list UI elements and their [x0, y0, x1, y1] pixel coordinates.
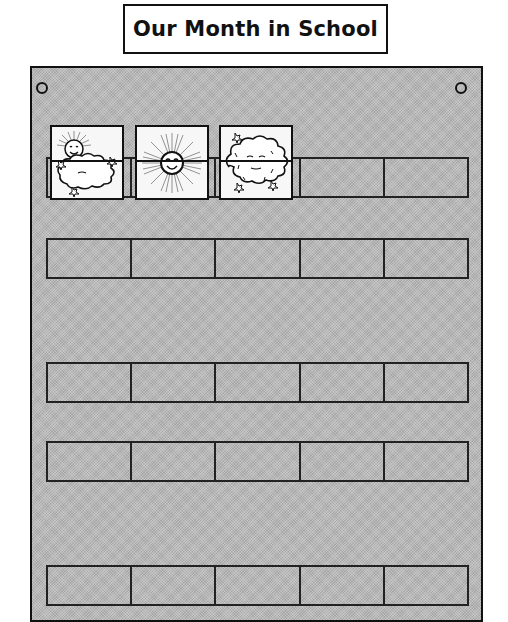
pocket[interactable] [132, 240, 216, 277]
pocket[interactable] [301, 443, 385, 480]
pocket[interactable] [216, 567, 300, 604]
pocket[interactable] [48, 567, 132, 604]
grommet-hole-top-left [36, 82, 48, 94]
pocket[interactable] [385, 240, 467, 277]
pocket-row-5 [46, 565, 469, 606]
pocket[interactable] [301, 364, 385, 401]
pocket-row-3 [46, 362, 469, 403]
page-title: Our Month in School [133, 17, 378, 41]
weather-card-partly-cloudy[interactable] [50, 125, 124, 200]
sun-behind-cloud-icon [52, 127, 122, 198]
grommet-hole-top-right [455, 82, 467, 94]
pocket-lip-line [137, 160, 207, 162]
pocket[interactable] [301, 159, 385, 196]
cloud-icon [221, 127, 291, 198]
pocket[interactable] [385, 443, 467, 480]
pocket[interactable] [132, 567, 216, 604]
pocket[interactable] [385, 567, 467, 604]
pocket[interactable] [385, 364, 467, 401]
pocket[interactable] [385, 159, 467, 196]
pocket[interactable] [301, 240, 385, 277]
pocket-lip-line [52, 160, 122, 162]
pocket[interactable] [48, 364, 132, 401]
pocket[interactable] [301, 567, 385, 604]
weather-card-cloudy[interactable] [219, 125, 293, 200]
pocket[interactable] [48, 443, 132, 480]
pocket[interactable] [216, 364, 300, 401]
pocket[interactable] [48, 240, 132, 277]
pocket-row-4 [46, 441, 469, 482]
sun-icon [137, 127, 207, 198]
weather-card-sunny[interactable] [135, 125, 209, 200]
pocket[interactable] [132, 364, 216, 401]
pocket[interactable] [216, 240, 300, 277]
title-box: Our Month in School [123, 4, 388, 54]
pocket[interactable] [216, 443, 300, 480]
pocket-lip-line [221, 160, 291, 162]
pocket[interactable] [132, 443, 216, 480]
pocket-row-2 [46, 238, 469, 279]
pocket-chart-board [30, 66, 483, 622]
